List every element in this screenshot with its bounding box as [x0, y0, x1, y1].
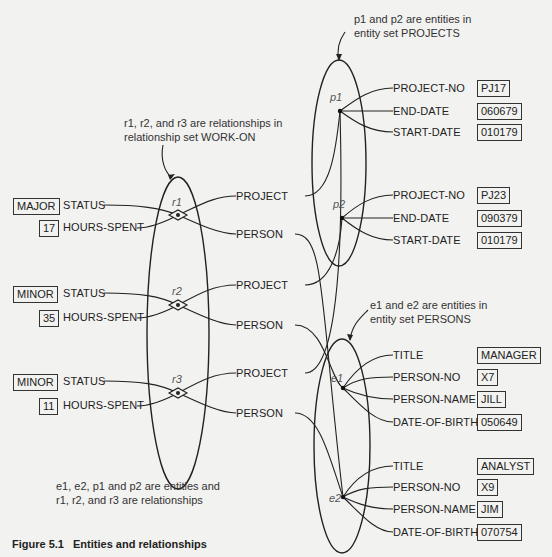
persons-note-line1: e1 and e2 are entities in — [370, 298, 487, 312]
attr-value-e1-person-name: JILL — [477, 391, 506, 408]
attr-name-p1-start-date: START-DATE — [393, 126, 461, 139]
role-person-r3: PERSON — [236, 407, 283, 420]
relationship-label-r2: r2 — [172, 285, 182, 297]
link-r1-project-p1 — [305, 111, 340, 196]
attr-value-e1-date-of-birth: 050649 — [477, 414, 522, 431]
attr-name-e1-date-of-birth: DATE-OF-BIRTH — [393, 416, 478, 429]
relationship-label-r1: r1 — [172, 196, 182, 208]
attr-value-p1-project-no: PJ17 — [477, 80, 510, 97]
figure-caption: Figure 5.1 Entities and relationships — [12, 538, 207, 550]
attr-value-p1-end-date: 060679 — [477, 103, 522, 120]
hours-label-r2: HOURS-SPENT — [63, 311, 144, 324]
hours-label-r1: HOURS-SPENT — [63, 221, 144, 234]
attr-value-e2-title: ANALYST — [477, 458, 534, 475]
hours-value-r3: 11 — [39, 398, 58, 415]
workon-note-line1: r1, r2, and r3 are relationships in — [124, 116, 282, 130]
attr-name-p2-end-date: END-DATE — [393, 212, 449, 225]
workon-set-ellipse — [147, 177, 209, 489]
hours-label-r3: HOURS-SPENT — [63, 399, 144, 412]
hours-value-r2: 35 — [39, 310, 59, 327]
attr-value-p2-project-no: PJ23 — [477, 187, 510, 204]
link-r2-project-p2 — [305, 218, 342, 285]
link-r1-person-e2 — [295, 234, 343, 497]
attr-name-p2-start-date: START-DATE — [393, 234, 461, 247]
status-label-r1: STATUS — [63, 199, 105, 212]
entity-label-e1: e1 — [331, 372, 343, 384]
status-value-r1: MAJOR — [13, 198, 60, 215]
summary-note-line1: e1, e2, p1 and p2 are entities and — [56, 479, 220, 493]
entity-dot-p2 — [340, 216, 344, 220]
role-person-r2: PERSON — [236, 319, 283, 332]
persons-note-line2: entity set PERSONS — [370, 312, 487, 326]
entity-label-p2: p2 — [333, 198, 345, 210]
attr-name-e2-date-of-birth: DATE-OF-BIRTH — [393, 526, 478, 539]
attr-value-e2-date-of-birth: 070754 — [477, 524, 522, 541]
attr-name-e1-title: TITLE — [393, 349, 423, 362]
attr-value-p2-start-date: 010179 — [477, 232, 522, 249]
attr-name-p2-project-no: PROJECT-NO — [393, 189, 465, 202]
figure-number: Figure 5.1 — [12, 538, 64, 550]
role-project-r3: PROJECT — [236, 367, 288, 380]
attr-value-p2-end-date: 090379 — [477, 210, 522, 227]
role-project-r2: PROJECT — [236, 279, 288, 292]
projects-note-line2: entity set PROJECTS — [354, 26, 471, 40]
entity-dot-e2 — [341, 495, 345, 499]
projects-note-line1: p1 and p2 are entities in — [354, 12, 471, 26]
attr-name-p1-project-no: PROJECT-NO — [393, 82, 465, 95]
attr-name-p1-end-date: END-DATE — [393, 105, 449, 118]
entity-label-p1: p1 — [330, 91, 342, 103]
entity-dot-e1 — [341, 386, 345, 390]
attr-value-e2-person-no: X9 — [477, 479, 498, 496]
summary-note-line2: r1, r2, and r3 are relationships — [56, 493, 220, 507]
relationship-label-r3: r3 — [172, 373, 182, 385]
workon-note: r1, r2, and r3 are relationships in rela… — [124, 116, 282, 144]
attr-name-e2-title: TITLE — [393, 460, 423, 473]
hours-value-r1: 17 — [39, 220, 59, 237]
arrowhead-persons — [347, 334, 353, 341]
attr-value-e2-person-name: JIM — [477, 501, 503, 518]
note-arrow-workon — [162, 145, 172, 178]
workon-note-line2: relationship set WORK-ON — [124, 130, 282, 144]
attr-value-e1-title: MANAGER — [477, 347, 541, 364]
attr-name-e1-person-no: PERSON-NO — [393, 371, 461, 384]
role-person-r1: PERSON — [236, 228, 283, 241]
status-label-r3: STATUS — [63, 375, 105, 388]
status-value-r3: MINOR — [13, 374, 58, 391]
figure-title: Entities and relationships — [73, 538, 207, 550]
link-r3-project-p1 — [305, 111, 341, 373]
attr-name-e1-person-name: PERSON-NAME — [393, 393, 476, 406]
status-value-r2: MINOR — [13, 286, 58, 303]
entity-label-e2: e2 — [329, 492, 341, 504]
persons-note: e1 and e2 are entities in entity set PER… — [370, 298, 487, 326]
projects-note: p1 and p2 are entities in entity set PRO… — [354, 12, 471, 40]
attr-value-p1-start-date: 010179 — [477, 124, 522, 141]
role-project-r1: PROJECT — [236, 190, 288, 203]
link-r3-person-e2 — [295, 413, 343, 497]
attr-name-e2-person-name: PERSON-NAME — [393, 503, 476, 516]
entity-dot-p1 — [338, 109, 342, 113]
attr-value-e1-person-no: X7 — [477, 369, 498, 386]
attr-name-e2-person-no: PERSON-NO — [393, 481, 461, 494]
summary-note: e1, e2, p1 and p2 are entities and r1, r… — [56, 479, 220, 507]
status-label-r2: STATUS — [63, 287, 105, 300]
